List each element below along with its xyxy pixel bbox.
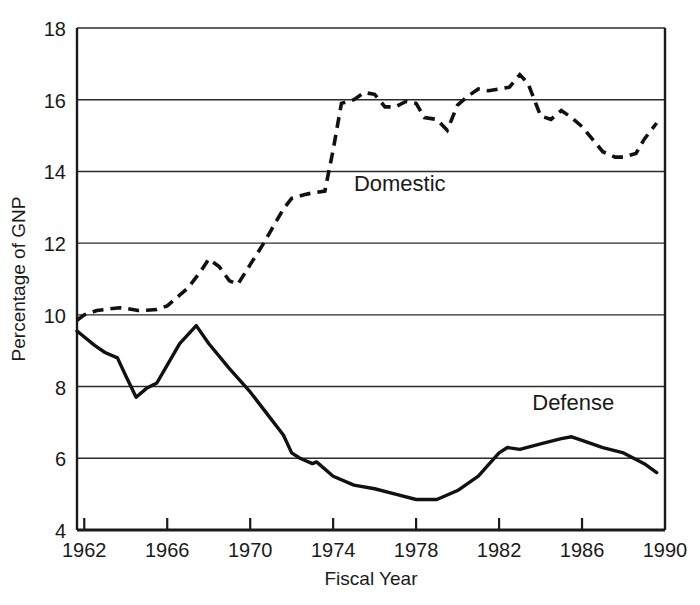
series-label-domestic: Domestic — [354, 171, 446, 196]
x-tick-label-1982: 1982 — [477, 539, 522, 561]
x-tick-label-1962: 1962 — [62, 539, 107, 561]
y-tick-label-8: 8 — [55, 377, 66, 399]
y-tick-label-18: 18 — [44, 18, 66, 40]
x-tick-label-1974: 1974 — [311, 539, 356, 561]
y-tick-label-10: 10 — [44, 305, 66, 327]
y-axis-title: Percentage of GNP — [8, 197, 29, 362]
y-tick-label-16: 16 — [44, 90, 66, 112]
gnp-percentage-line-chart: 19621966197019741978198219861990 4681012… — [0, 0, 700, 605]
y-tick-label-4: 4 — [55, 520, 66, 542]
y-tick-label-6: 6 — [55, 448, 66, 470]
x-tick-label-1986: 1986 — [560, 539, 605, 561]
x-tick-label-1966: 1966 — [145, 539, 190, 561]
chart-background — [0, 0, 700, 605]
y-tick-label-14: 14 — [44, 161, 66, 183]
x-tick-label-1990: 1990 — [643, 539, 688, 561]
x-tick-label-1978: 1978 — [394, 539, 439, 561]
chart-figure: 19621966197019741978198219861990 4681012… — [0, 0, 700, 605]
x-tick-label-1970: 1970 — [228, 539, 273, 561]
x-axis-title: Fiscal Year — [325, 568, 419, 589]
series-label-defense: Defense — [532, 390, 614, 415]
y-tick-label-12: 12 — [44, 233, 66, 255]
